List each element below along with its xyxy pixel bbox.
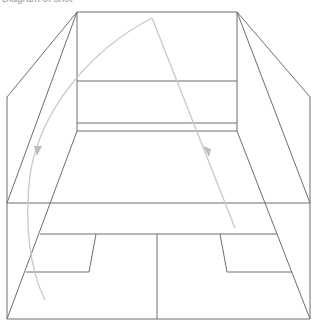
court-lines: [7, 12, 310, 319]
floor-right-edge: [237, 131, 310, 319]
left-service-box-side: [89, 234, 96, 272]
left-wall-out-line: [7, 12, 77, 203]
squash-court-diagram: [0, 0, 324, 325]
curved-trajectory: [28, 18, 152, 300]
left-wall-top: [7, 12, 77, 97]
right-wall-out-line: [237, 12, 310, 203]
floor-left-edge: [7, 131, 77, 319]
right-service-box-side: [220, 234, 227, 272]
right-wall-top: [237, 12, 310, 97]
